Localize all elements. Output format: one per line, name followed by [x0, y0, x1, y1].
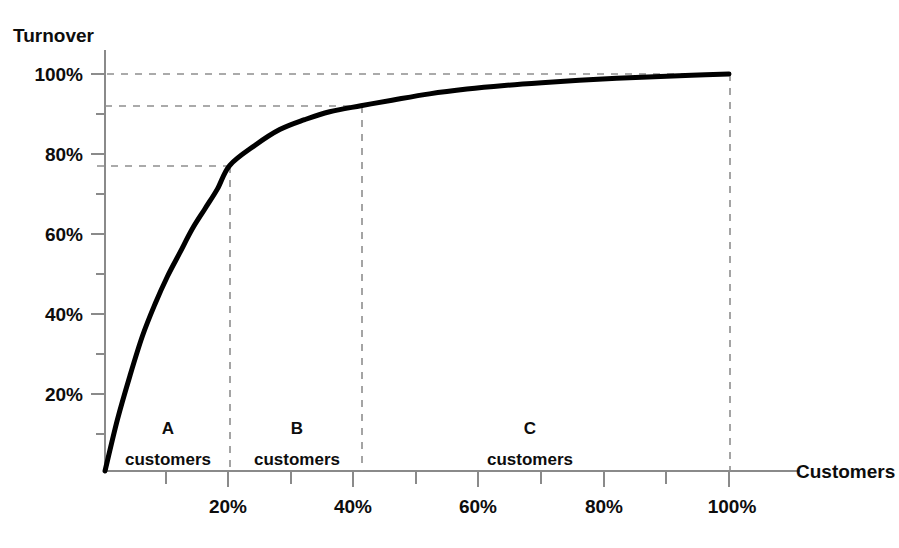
segment-a-word: customers: [125, 450, 211, 469]
pareto-chart: Turnover 100% 80% 60% 40% 20%: [0, 0, 899, 548]
x-tick-label-100: 100%: [708, 496, 757, 517]
y-tick-label-80: 80%: [45, 144, 83, 165]
segment-b-letter: B: [291, 419, 303, 438]
segment-c-letter: C: [524, 419, 536, 438]
x-tick-label-80: 80%: [585, 496, 623, 517]
y-tick-label-100: 100%: [34, 64, 83, 85]
segment-c-word: customers: [487, 450, 573, 469]
segment-b-word: customers: [254, 450, 340, 469]
y-tick-label-60: 60%: [45, 224, 83, 245]
y-axis-title: Turnover: [13, 25, 95, 46]
x-tick-label-40: 40%: [334, 496, 372, 517]
y-tick-label-40: 40%: [45, 304, 83, 325]
y-tick-label-20: 20%: [45, 384, 83, 405]
chart-canvas: Turnover 100% 80% 60% 40% 20%: [0, 0, 899, 548]
x-axis-title: Customers: [796, 461, 895, 482]
x-tick-label-60: 60%: [459, 496, 497, 517]
x-tick-label-20: 20%: [209, 496, 247, 517]
segment-a-letter: A: [162, 419, 174, 438]
